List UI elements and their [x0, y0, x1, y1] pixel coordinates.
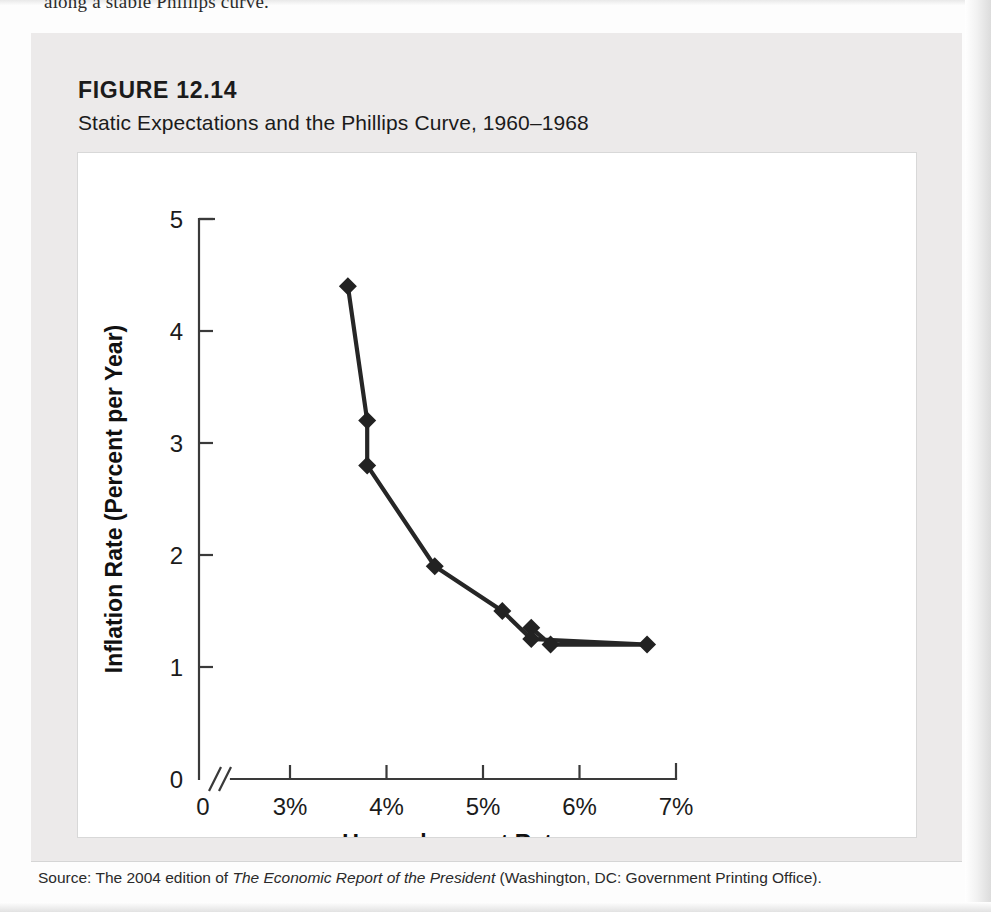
- axis-break-slash-1: [209, 767, 221, 791]
- caption-divider: [31, 861, 962, 862]
- phillips-curve-chart: 0123453%4%5%6%7%0Unemployment RateInflat…: [78, 153, 916, 837]
- y-tick-label-3: 3: [170, 430, 183, 457]
- textbook-page: along a stable Phillips curve. FIGURE 12…: [0, 0, 991, 912]
- source-suffix: (Washington, DC: Government Printing Off…: [495, 869, 821, 886]
- figure-title: Static Expectations and the Phillips Cur…: [78, 111, 589, 135]
- data-point-marker: [638, 636, 656, 654]
- source-prefix: Source: The 2004 edition of: [38, 869, 232, 886]
- source-caption: Source: The 2004 edition of The Economic…: [38, 869, 822, 887]
- x-tick-label-4: 4%: [369, 793, 404, 820]
- x-tick-label-6: 6%: [562, 793, 597, 820]
- y-tick-label-4: 4: [170, 318, 183, 345]
- y-tick-label-2: 2: [170, 542, 183, 569]
- x-origin-label: 0: [196, 793, 209, 820]
- y-axis-title: Inflation Rate (Percent per Year): [101, 325, 127, 674]
- source-publication-title: The Economic Report of the President: [232, 869, 495, 886]
- axis-break-slash-2: [219, 767, 231, 791]
- data-point-marker: [358, 412, 376, 430]
- figure-number-label: FIGURE 12.14: [78, 77, 237, 104]
- y-tick-label-5: 5: [170, 206, 183, 233]
- plot-panel: 0123453%4%5%6%7%0Unemployment RateInflat…: [77, 152, 917, 838]
- page-right-edge: [965, 0, 991, 912]
- y-tick-label-0: 0: [170, 766, 183, 793]
- figure-container: FIGURE 12.14 Static Expectations and the…: [31, 33, 962, 861]
- y-tick-label-1: 1: [170, 654, 183, 681]
- x-tick-label-5: 5%: [466, 793, 501, 820]
- series-line-phillips-curve: [348, 286, 647, 644]
- clipped-body-text: along a stable Phillips curve.: [44, 0, 464, 13]
- data-point-marker: [339, 277, 357, 295]
- x-tick-label-3: 3%: [273, 793, 308, 820]
- x-axis-title: Unemployment Rate: [342, 830, 564, 837]
- page-bottom-edge: [0, 902, 991, 912]
- x-tick-label-7: 7%: [659, 793, 694, 820]
